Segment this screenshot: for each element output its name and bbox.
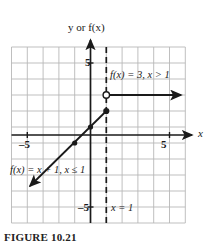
linear-ray-mid-dot (72, 140, 77, 145)
y-axis-label: y or f(x) (68, 22, 105, 33)
graph-plot (0, 0, 216, 251)
linear-ray-mid-dot (88, 124, 93, 129)
figure-container: y or f(x) x 5 –5 –5 5 f(x) = 3, x > 1 f(… (0, 0, 216, 251)
closed-endpoint-dot (103, 108, 109, 114)
x-tick-label-minus-5: –5 (19, 139, 30, 150)
x-tick-label-5: 5 (161, 139, 167, 150)
open-endpoint-circle (103, 92, 109, 98)
y-tick-label-5: 5 (85, 57, 91, 68)
annotation-linear-piece: f(x) = x + 1, x ≤ 1 (10, 165, 85, 176)
y-tick-label-minus-5: –5 (78, 202, 89, 213)
annotation-vertical-line: x = 1 (111, 203, 133, 214)
figure-caption: FIGURE 10.21 (4, 231, 77, 243)
annotation-constant-piece: f(x) = 3, x > 1 (110, 70, 170, 81)
x-axis-label: x (198, 128, 203, 139)
